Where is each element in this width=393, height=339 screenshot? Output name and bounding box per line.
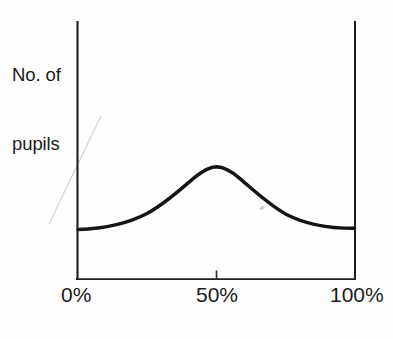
chart-figure: No. of pupils 0% 50% 100% [0,0,393,339]
distribution-curve [78,167,355,230]
y-axis-title-line-1: No. of [12,63,61,86]
y-axis-title: No. of pupils [12,17,61,201]
x-tick-label-0: 0% [61,283,91,307]
y-axis-title-line-2: pupils [12,132,61,155]
x-tick-label-100: 100% [330,283,384,307]
x-tick-label-50: 50% [196,283,238,307]
scan-artifact-speck [259,205,265,210]
